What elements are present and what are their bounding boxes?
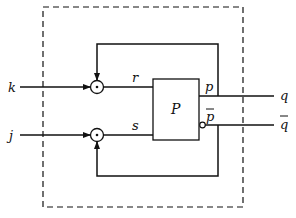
junction-k-icon <box>91 81 104 94</box>
signal-label-s: s <box>132 118 139 133</box>
system-boundary <box>43 7 243 207</box>
output-label-pbar: p <box>206 109 215 124</box>
output-label-q: q <box>280 88 288 103</box>
inversion-bubble-icon <box>200 122 206 128</box>
block-label-p: P <box>170 101 181 117</box>
block-diagram: k j r s P p q p q <box>0 0 296 218</box>
output-label-qbar: q <box>280 117 288 132</box>
output-label-p: p <box>205 79 214 94</box>
signal-label-r: r <box>132 70 139 85</box>
junction-j-icon <box>91 129 104 142</box>
input-label-k: k <box>8 80 16 95</box>
input-label-j: j <box>6 128 13 143</box>
